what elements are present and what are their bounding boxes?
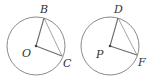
figure-circle-o: B O C (7, 3, 72, 75)
label-d: D (113, 3, 123, 16)
label-p: P (95, 48, 104, 61)
center-point-p (109, 45, 112, 48)
radius-ob (36, 18, 44, 46)
figure-circle-p: D P F (81, 3, 146, 75)
geometry-diagram: B O C D P F (0, 0, 155, 83)
radius-pd (110, 18, 118, 46)
center-point-o (35, 45, 38, 48)
label-c: C (63, 57, 72, 70)
label-b: B (39, 3, 48, 16)
label-o: O (22, 47, 31, 60)
label-f: F (137, 56, 146, 69)
